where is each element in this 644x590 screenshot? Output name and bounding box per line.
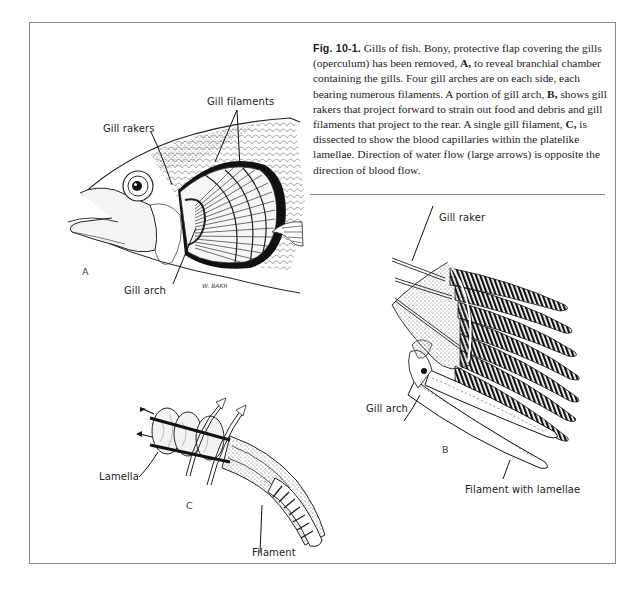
- figure-prefix: Fig.: [313, 42, 333, 54]
- label-lamella: Lamella: [99, 471, 139, 482]
- figure-number: Fig. 10-1.: [313, 42, 361, 54]
- label-filament-with-lamellae: Filament with lamellae: [465, 484, 580, 495]
- label-gill-raker: Gill raker: [439, 212, 485, 223]
- label-gill-filaments: Gill filaments: [207, 96, 274, 107]
- artist-signature: W. BAKR: [202, 282, 228, 289]
- label-gill-arch-b: Gill arch: [366, 403, 408, 414]
- panel-b-letter: B: [442, 444, 449, 455]
- figure-caption: Fig. 10-1. Gills of fish. Bony, protecti…: [313, 41, 613, 178]
- label-gill-rakers: Gill rakers: [103, 123, 155, 134]
- panel-c-filament: [136, 398, 325, 553]
- caption-divider: [310, 194, 605, 195]
- label-gill-arch-a: Gill arch: [124, 285, 166, 296]
- panel-c-letter: C: [186, 500, 193, 511]
- label-filament: Filament: [252, 547, 296, 558]
- panel-b-gill-arch: [392, 206, 579, 479]
- panel-a-letter: A: [82, 266, 89, 277]
- panel-a-fish-head: [68, 110, 305, 293]
